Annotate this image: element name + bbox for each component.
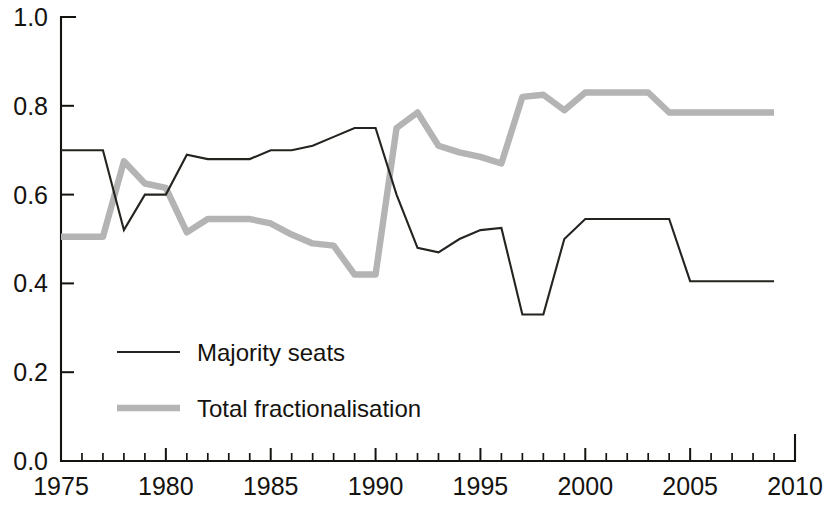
- line-chart: 19751980198519901995200020052010 0.00.20…: [0, 0, 824, 507]
- x-tick-label-1995: 1995: [453, 472, 509, 500]
- x-tick-label-2005: 2005: [662, 472, 718, 500]
- x-tick-label-1980: 1980: [138, 472, 194, 500]
- x-tick-label-2000: 2000: [557, 472, 613, 500]
- x-tick-label-1990: 1990: [348, 472, 404, 500]
- y-axis-tick-labels: 0.00.20.40.60.81.0: [13, 3, 48, 475]
- chart-container: 19751980198519901995200020052010 0.00.20…: [0, 0, 824, 507]
- x-axis-ticks: [61, 448, 795, 461]
- y-tick-label-0.6: 0.6: [13, 181, 48, 209]
- y-tick-label-0.4: 0.4: [13, 269, 48, 297]
- y-tick-label-0.0: 0.0: [13, 447, 48, 475]
- y-tick-label-1.0: 1.0: [13, 3, 48, 31]
- y-tick-label-0.8: 0.8: [13, 92, 48, 120]
- chart-series-group: [61, 92, 774, 314]
- x-tick-label-1975: 1975: [33, 472, 89, 500]
- x-tick-label-2010: 2010: [767, 472, 823, 500]
- y-tick-label-0.2: 0.2: [13, 358, 48, 386]
- series-line-majority-seats: [61, 128, 774, 314]
- axis-lines: [61, 17, 795, 461]
- chart-legend: Majority seats Total fractionalisation: [117, 339, 421, 422]
- x-axis-tick-labels: 19751980198519901995200020052010: [33, 472, 823, 500]
- chart-axes: [61, 17, 795, 461]
- legend-label-majority-seats: Majority seats: [197, 339, 345, 366]
- x-tick-label-1985: 1985: [243, 472, 299, 500]
- legend-label-total-fractionalisation: Total fractionalisation: [197, 395, 421, 422]
